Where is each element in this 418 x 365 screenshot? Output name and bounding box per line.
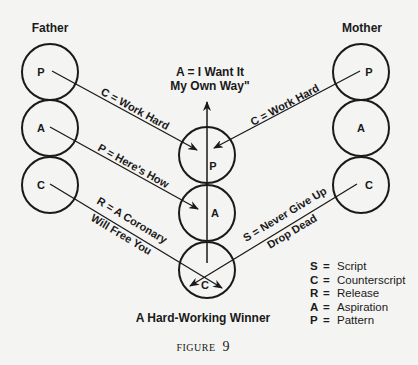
legend-key-p: P (310, 314, 318, 326)
figure-label: FIGURE 9 (176, 337, 229, 354)
child-p-letter: P (209, 160, 216, 172)
legend-key-a: A (310, 301, 318, 313)
mother-child-circle (333, 157, 389, 213)
mother-c-letter: C (365, 179, 373, 191)
father-ego-states (22, 44, 78, 213)
legend-value-p: Pattern (337, 314, 374, 326)
child-a-letter: A (211, 207, 219, 219)
mother-label: Mother (342, 21, 382, 35)
father-parent-circle (22, 44, 78, 100)
father-child-circle (22, 157, 78, 213)
legend-value-r: Release (337, 287, 379, 299)
legend-key-c: C (310, 274, 318, 286)
aspiration-line-2: My Own Way" (170, 79, 249, 93)
legend-eq-r: = (323, 287, 330, 299)
mother-p-letter: P (365, 66, 372, 78)
legend-key-r: R (310, 287, 319, 299)
father-c-letter: C (37, 179, 45, 191)
legend-eq-c: = (323, 274, 330, 286)
legend-eq-p: = (323, 314, 330, 326)
legend-eq-s: = (323, 260, 330, 272)
mother-parent-circle (333, 44, 389, 100)
figure-number: 9 (223, 339, 230, 354)
figure-prefix: FIGURE (176, 342, 215, 353)
script-matrix-diagram: Father P A C Mother P A C P A C A = I Wa… (0, 0, 418, 365)
father-a-message: P = Here's How (96, 141, 171, 190)
father-a-letter: A (37, 122, 45, 134)
father-label: Father (32, 21, 69, 35)
diagram-caption: A Hard-Working Winner (136, 311, 271, 325)
legend-eq-a: = (323, 301, 330, 313)
legend-key-s: S (310, 260, 318, 272)
legend-value-c: Counterscript (337, 274, 406, 286)
legend-value-a: Aspiration (337, 301, 388, 313)
child-c-letter: C (201, 279, 209, 291)
father-p-message: C = Work Hard (99, 85, 171, 132)
father-adult-circle (22, 100, 78, 156)
aspiration-line-1: A = I Want It (176, 65, 244, 79)
legend: S = Script C = Counterscript R = Release… (310, 260, 406, 326)
legend-value-s: Script (337, 260, 367, 272)
mother-a-letter: A (357, 122, 365, 134)
father-p-letter: P (37, 66, 44, 78)
mother-p-message: C = Work Hard (248, 82, 321, 128)
